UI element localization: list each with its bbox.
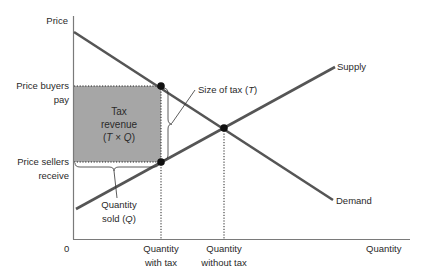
quantity-without-tax-label: Quantity without tax [194,243,254,269]
demand-label: Demand [336,195,372,207]
sellers-price-point [157,158,165,166]
size-of-tax-brace [163,88,172,160]
equilibrium-point [220,124,228,132]
quantity-sold-leader [114,171,117,198]
quantity-sold-text: sold ( [102,213,125,224]
price-sellers-line2: receive [0,170,69,182]
tax-revenue-label: Tax revenue (T × Q) [84,105,154,144]
price-buyers-pay-label: Price buyers pay [0,80,69,106]
paren-close: ) [132,132,135,143]
times-sign: × [112,132,123,143]
tax-revenue-line3: (T × Q) [84,131,154,144]
quantity-sold-symbol: Q [125,213,132,224]
quantity-with-tax-line1: Quantity [136,243,186,255]
diagram-graphics [0,0,422,280]
quantity-without-tax-line2: without tax [194,257,254,269]
price-sellers-receive-label: Price sellers receive [0,156,69,182]
y-axis-label: Price [30,15,68,27]
supply-label: Supply [337,61,366,73]
quantity-sold-line2: sold (Q) [96,213,142,225]
origin-label: 0 [64,243,69,255]
size-of-tax-leader [172,90,195,123]
price-buyers-line2: pay [0,94,69,106]
quantity-sold-close: ) [133,213,136,224]
size-of-tax-text: Size of tax ( [198,84,248,95]
quantity-with-tax-label: Quantity with tax [136,243,186,269]
tax-revenue-diagram: Price 0 Quantity Price buyers pay Price … [0,0,422,280]
quantity-symbol: Q [124,132,132,143]
quantity-without-tax-line1: Quantity [194,243,254,255]
size-of-tax-label: Size of tax (T) [198,84,257,96]
x-axis-label: Quantity [366,243,401,255]
tax-revenue-line2: revenue [84,118,154,131]
quantity-sold-label: Quantity sold (Q) [96,199,142,225]
tax-revenue-line1: Tax [84,105,154,118]
buyers-price-point [157,82,165,90]
quantity-sold-line1: Quantity [96,199,142,211]
quantity-with-tax-line2: with tax [136,257,186,269]
price-buyers-line1: Price buyers [0,80,69,92]
size-of-tax-close: ) [254,84,257,95]
price-sellers-line1: Price sellers [0,156,69,168]
